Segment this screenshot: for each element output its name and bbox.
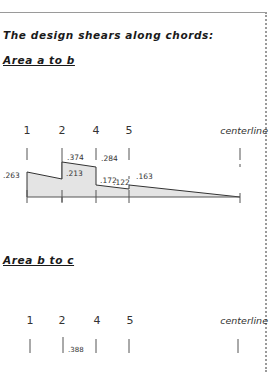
station-label-1: 1: [24, 124, 31, 137]
station-label-4: 4: [94, 314, 101, 327]
station-label-2: 2: [59, 314, 66, 327]
station-label-2: 2: [59, 124, 66, 137]
station-label-4: 4: [93, 124, 100, 137]
station-label-5: 5: [126, 124, 133, 137]
shear-diagram-b-to-c: 1 2 4 5 centerline .388: [27, 314, 269, 353]
value-s5-left: .122: [113, 178, 130, 187]
value-s5-right: .163: [136, 172, 153, 181]
station-label-centerline: centerline: [220, 315, 268, 326]
station-ticks: [30, 337, 238, 353]
value-s1-left: .263: [3, 171, 20, 180]
value-s2-top: .374: [67, 153, 84, 162]
value-s4-top: .284: [101, 154, 118, 163]
shear-area-fill: [27, 162, 240, 197]
value-s2-right: .213: [66, 169, 83, 178]
shear-diagram-a-to-b: 1 2 4 5 centerline .263 .213: [3, 124, 268, 203]
station-label-centerline: centerline: [220, 125, 268, 136]
station-label-5: 5: [127, 314, 134, 327]
value-s2-top: .388: [68, 346, 84, 353]
station-label-1: 1: [27, 314, 34, 327]
